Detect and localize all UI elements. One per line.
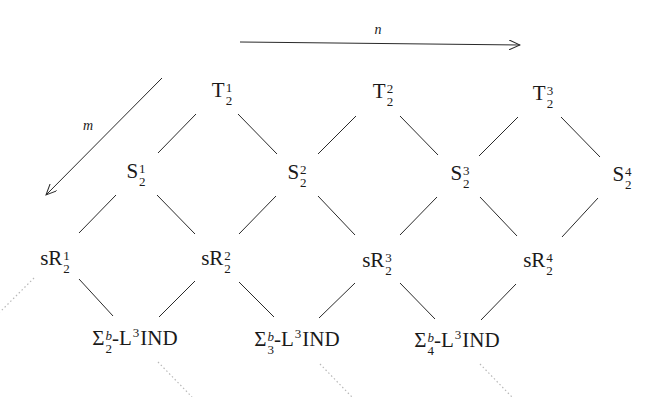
node-S2-2: S22 [287, 161, 306, 187]
node-T2-2: T22 [373, 80, 393, 106]
node-sR2-2: sR22 [201, 247, 231, 273]
node-sR2-3: sR32 [362, 249, 392, 275]
node-sR2-4: sR42 [523, 249, 553, 275]
node-T2-1: T12 [212, 79, 232, 105]
n-axis-label: n [375, 22, 382, 38]
node-sigma3-L3IND: Σb3-L3IND [254, 327, 339, 354]
node-sigma4-L3IND: Σb4-L3IND [414, 328, 499, 355]
node-T2-3: T32 [533, 82, 553, 108]
node-sigma2-L3IND: Σb2-L3IND [92, 326, 177, 353]
node-S2-3: S32 [450, 162, 469, 188]
lattice-lines [79, 114, 600, 320]
node-sR2-1: sR12 [40, 247, 70, 273]
n-axis-arrow [240, 42, 520, 45]
m-axis-label: m [83, 118, 93, 134]
node-S2-1: S12 [126, 160, 145, 186]
node-S2-4: S42 [612, 163, 631, 189]
